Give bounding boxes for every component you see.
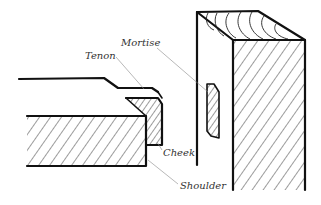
tenon-board [19, 78, 162, 166]
shoulder-leader [148, 160, 178, 184]
mortise-post [197, 11, 305, 190]
mortise-leader [157, 48, 208, 92]
post-section-face [233, 40, 305, 190]
end-grain-icon [206, 12, 288, 39]
cheek-label: Cheek [163, 148, 195, 158]
tenon-leader [116, 57, 144, 89]
mortise-label: Mortise [121, 38, 160, 48]
mortise-tenon-diagram [0, 0, 321, 205]
tenon-label: Tenon [85, 51, 116, 61]
shoulder-label: Shoulder [180, 181, 226, 191]
post-top-face [197, 11, 305, 40]
mortise-hole [207, 84, 219, 138]
